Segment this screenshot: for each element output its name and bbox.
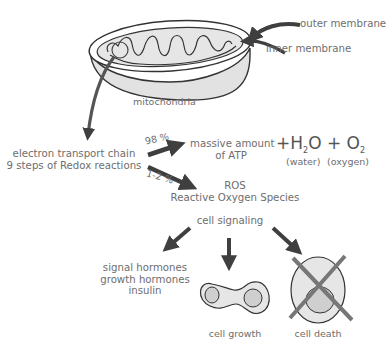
products-formula: +H2O + O2 bbox=[276, 134, 365, 156]
cell-death-illustration bbox=[290, 256, 352, 323]
signal-right-arrow bbox=[273, 228, 297, 250]
oxygen-label: (oxygen) bbox=[327, 157, 369, 168]
ros-label: ROS Reactive Oxygen Species bbox=[170, 180, 300, 203]
cell-growth-label: cell growth bbox=[200, 329, 270, 340]
cell-growth-illustration bbox=[200, 282, 269, 314]
etc-line1: electron transport chain bbox=[4, 148, 144, 160]
plus-sign: + bbox=[327, 133, 341, 153]
hormones-list: signal hormones growth hormones insulin bbox=[95, 262, 195, 297]
cell-death-label: cell death bbox=[283, 329, 353, 340]
water-H: H bbox=[290, 133, 303, 153]
outer-membrane-arrow bbox=[252, 24, 300, 38]
outer-membrane-label: outer membrane bbox=[300, 18, 386, 30]
oxygen-subscript: 2 bbox=[360, 146, 365, 155]
plus-sign: + bbox=[276, 133, 290, 153]
ros-line2: Reactive Oxygen Species bbox=[170, 192, 300, 204]
hormone-item: signal hormones bbox=[95, 262, 195, 274]
hormone-item: insulin bbox=[95, 285, 195, 297]
ros-line1: ROS bbox=[170, 180, 300, 192]
atp-arrow bbox=[148, 145, 178, 155]
hormone-item: growth hormones bbox=[95, 274, 195, 286]
water-label: (water) bbox=[286, 157, 320, 168]
water-O: O bbox=[308, 133, 321, 153]
atp-label: massive amount of ATP bbox=[190, 138, 272, 161]
oxygen-O: O bbox=[347, 133, 360, 153]
inner-membrane-label: inner membrane bbox=[266, 43, 351, 55]
cell-signaling-label: cell signaling bbox=[190, 215, 270, 227]
atp-line1: massive amount bbox=[190, 138, 272, 150]
mitochondria-label: mitochondria bbox=[133, 97, 196, 108]
etc-line2: 9 steps of Redox reactions bbox=[4, 160, 144, 172]
signal-left-arrow bbox=[168, 228, 190, 247]
etc-label: electron transport chain 9 steps of Redo… bbox=[4, 148, 144, 171]
atp-line2: of ATP bbox=[190, 150, 272, 162]
